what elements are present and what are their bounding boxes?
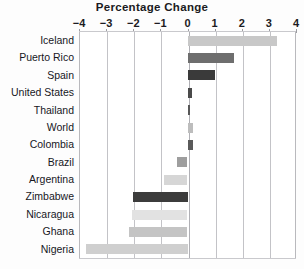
bar-puerto-rico	[188, 53, 234, 63]
x-tick-label-6: 2	[230, 17, 254, 29]
x-tick-label-7: 3	[257, 17, 281, 29]
bar-row: Zimbabwe	[0, 188, 304, 205]
bar-row: United States	[0, 84, 304, 101]
category-label-spain: Spain	[0, 67, 74, 84]
x-tick-label-1: −3	[94, 17, 118, 29]
bar-row: Thailand	[0, 102, 304, 119]
axis-bottom-rule	[79, 258, 296, 259]
category-label-puerto-rico: Puerto Rico	[0, 49, 74, 66]
bar-ghana	[129, 227, 187, 237]
bar-nicaragua	[132, 210, 188, 220]
x-tick-label-4: 0	[176, 17, 200, 29]
bar-iceland	[188, 36, 278, 46]
bar-thailand	[188, 105, 191, 115]
bar-nigeria	[86, 244, 188, 254]
x-tick-label-3: −1	[148, 17, 172, 29]
x-tick-label-0: −4	[67, 17, 91, 29]
bar-argentina	[164, 175, 187, 185]
category-label-argentina: Argentina	[0, 171, 74, 188]
category-label-nigeria: Nigeria	[0, 241, 74, 258]
chart-title: Percentage Change	[0, 1, 304, 13]
bar-row: Iceland	[0, 32, 304, 49]
category-label-world: World	[0, 119, 74, 136]
bar-row: Colombia	[0, 136, 304, 153]
bar-row: World	[0, 119, 304, 136]
bar-colombia	[188, 140, 193, 150]
bar-row: Puerto Rico	[0, 49, 304, 66]
bar-row: Brazil	[0, 154, 304, 171]
category-label-colombia: Colombia	[0, 136, 74, 153]
x-tick-label-8: 4	[284, 17, 304, 29]
bar-row: Nigeria	[0, 241, 304, 258]
category-label-iceland: Iceland	[0, 32, 74, 49]
x-tick-label-5: 1	[203, 17, 227, 29]
bar-zimbabwe	[133, 192, 187, 202]
bar-row: Nicaragua	[0, 206, 304, 223]
bar-world	[188, 123, 193, 133]
bar-spain	[188, 70, 215, 80]
bar-row: Spain	[0, 67, 304, 84]
category-label-zimbabwe: Zimbabwe	[0, 188, 74, 205]
category-label-united-states: United States	[0, 84, 74, 101]
bar-row: Ghana	[0, 223, 304, 240]
percentage-change-bar-chart: Percentage Change −4−3−2−101234 IcelandP…	[0, 0, 304, 269]
x-tick-label-2: −2	[121, 17, 145, 29]
bar-brazil	[177, 157, 188, 167]
bar-row: Argentina	[0, 171, 304, 188]
bar-united-states	[188, 88, 192, 98]
category-label-brazil: Brazil	[0, 154, 74, 171]
category-label-thailand: Thailand	[0, 102, 74, 119]
category-label-nicaragua: Nicaragua	[0, 206, 74, 223]
category-label-ghana: Ghana	[0, 223, 74, 240]
